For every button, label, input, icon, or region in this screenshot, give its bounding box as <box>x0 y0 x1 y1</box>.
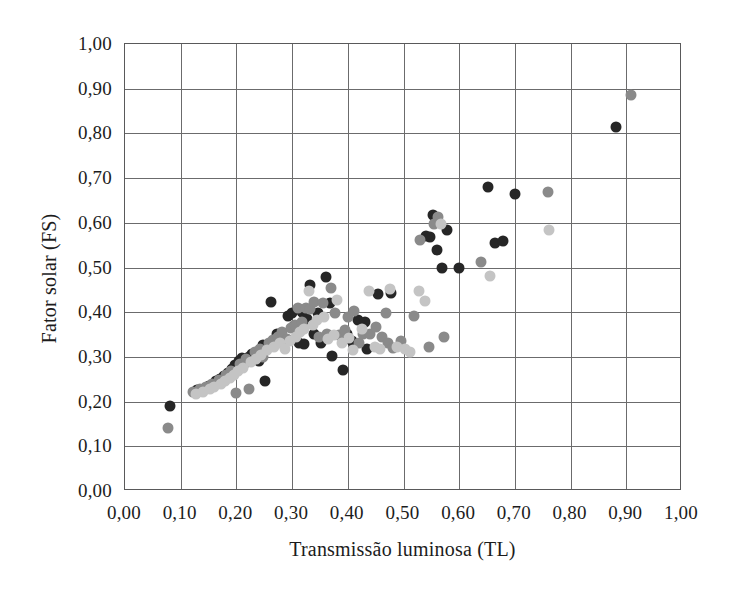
data-point <box>419 296 430 307</box>
data-point <box>265 297 276 308</box>
data-point <box>231 387 242 398</box>
data-point <box>164 401 175 412</box>
gridline-horizontal <box>125 178 680 179</box>
gridline-horizontal <box>125 89 680 90</box>
data-point <box>348 345 359 356</box>
gridline-vertical <box>404 44 405 489</box>
data-point <box>260 376 271 387</box>
plot-area <box>124 43 681 490</box>
data-point <box>363 285 374 296</box>
data-point <box>319 311 330 322</box>
data-point <box>611 121 622 132</box>
data-point <box>509 188 520 199</box>
data-point <box>436 218 447 229</box>
data-point <box>326 282 337 293</box>
data-point <box>408 310 419 321</box>
gridline-vertical <box>181 44 182 489</box>
data-point <box>356 324 367 335</box>
data-point <box>484 271 495 282</box>
gridline-vertical <box>236 44 237 489</box>
y-axis-title: Fator solar (FS) <box>38 129 61 429</box>
data-point <box>329 308 340 319</box>
data-point <box>437 262 448 273</box>
gridline-horizontal <box>125 312 680 313</box>
gridline-horizontal <box>125 268 680 269</box>
gridline-horizontal <box>125 133 680 134</box>
data-point <box>344 333 355 344</box>
gridline-horizontal <box>125 223 680 224</box>
data-point <box>454 262 465 273</box>
data-point <box>327 351 338 362</box>
y-tick-label: 0,10 <box>0 436 112 455</box>
y-tick-label: 0,00 <box>0 481 112 500</box>
data-point <box>370 321 381 332</box>
gridline-vertical <box>348 44 349 489</box>
data-point <box>438 331 449 342</box>
gridline-vertical <box>626 44 627 489</box>
data-point <box>373 289 384 300</box>
data-point <box>380 308 391 319</box>
data-point <box>384 283 395 294</box>
data-point <box>544 224 555 235</box>
data-point <box>476 257 487 268</box>
gridline-vertical <box>515 44 516 489</box>
y-tick-label: 1,00 <box>0 34 112 53</box>
data-point <box>299 339 310 350</box>
x-tick-label: 1,00 <box>641 503 721 522</box>
data-point <box>331 294 342 305</box>
data-point <box>423 342 434 353</box>
x-axis-title: Transmissão luminosa (TL) <box>124 538 681 561</box>
data-point <box>625 90 636 101</box>
data-point <box>543 186 554 197</box>
gridline-horizontal <box>125 357 680 358</box>
data-point <box>244 384 255 395</box>
data-point <box>317 298 328 309</box>
gridline-vertical <box>571 44 572 489</box>
data-point <box>375 343 386 354</box>
gridline-horizontal <box>125 402 680 403</box>
data-point <box>431 244 442 255</box>
gridline-vertical <box>292 44 293 489</box>
data-point <box>497 235 508 246</box>
data-point <box>415 234 426 245</box>
scatter-chart: 0,000,100,200,300,400,500,600,700,800,90… <box>0 0 729 590</box>
data-point <box>425 232 436 243</box>
data-point <box>405 346 416 357</box>
data-point <box>303 285 314 296</box>
data-point <box>349 306 360 317</box>
data-point <box>483 182 494 193</box>
y-tick-label: 0,90 <box>0 78 112 97</box>
x-axis-ticks: 0,000,100,200,300,400,500,600,700,800,90… <box>0 503 729 533</box>
data-point <box>338 365 349 376</box>
data-point <box>163 422 174 433</box>
gridline-horizontal <box>125 446 680 447</box>
